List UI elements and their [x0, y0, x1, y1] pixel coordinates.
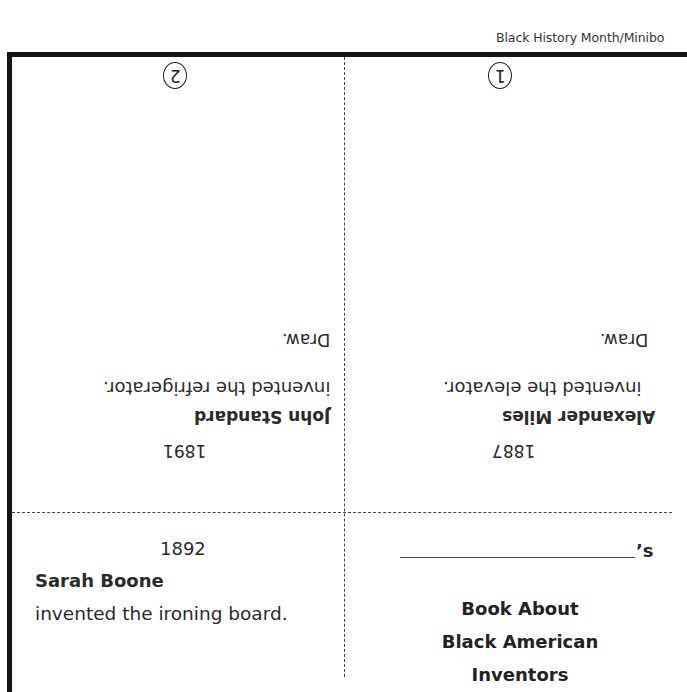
inventor-name: John Standard: [194, 407, 330, 427]
horizontal-fold-line: [12, 512, 672, 513]
page-border-left: [7, 52, 12, 692]
page-number: 1: [495, 66, 506, 86]
possessive-suffix: ’s: [636, 540, 654, 561]
page-number: 2: [170, 66, 181, 86]
inventor-name: Sarah Boone: [35, 570, 164, 591]
invention-year: 1892: [160, 538, 206, 559]
vertical-cut-line: [344, 57, 345, 677]
invention-description: invented the refrigerator.: [103, 378, 330, 399]
cover-title-line-2: Black American: [380, 631, 660, 652]
cover-title-line-1: Book About: [380, 598, 660, 619]
name-blank-line[interactable]: [400, 557, 635, 558]
page-header-title: Black History Month/Minibo: [496, 30, 664, 45]
draw-instruction: Draw.: [600, 330, 648, 350]
inventor-name: Alexander Miles: [502, 407, 655, 427]
page-number-circle-icon: 2: [163, 62, 187, 89]
cover-title-line-3: Inventors: [380, 664, 660, 685]
invention-description: invented the ironing board.: [35, 603, 288, 624]
page-number-circle-icon: 1: [488, 62, 512, 89]
invention-description: invented the elevator.: [443, 378, 641, 399]
draw-instruction: Draw.: [282, 330, 330, 350]
page-border-top: [7, 52, 687, 57]
invention-year: 1887: [492, 441, 535, 461]
invention-year: 1891: [163, 441, 206, 461]
